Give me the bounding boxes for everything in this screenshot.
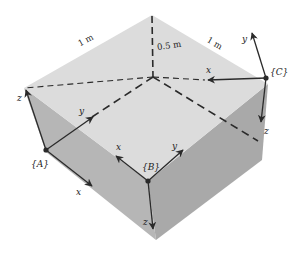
frame-b-y-label: y <box>171 141 178 151</box>
frame-a-x-label: x <box>76 187 81 197</box>
frame-c-z-label: z <box>263 126 269 136</box>
frame-c-label: {C} <box>270 67 288 77</box>
box <box>24 15 268 240</box>
frame-c-y-label: y <box>241 34 248 44</box>
frame-b-x-label: x <box>116 142 121 152</box>
frame-a-z-label: z <box>16 93 22 103</box>
frame-a-origin <box>43 147 48 152</box>
frame-b-z-label: z <box>142 217 148 227</box>
dimension-left-edge: 1 m <box>76 32 95 48</box>
frame-a-y-label: y <box>78 106 85 116</box>
frame-c-origin <box>263 75 268 80</box>
box-frames-diagram: 1 m 0.5 m 1 m {A} z y x {B} x y z <box>0 0 298 254</box>
frame-b-origin <box>145 178 150 183</box>
frame-c-x-label: x <box>206 65 211 75</box>
frame-a-label: {A} <box>31 159 49 169</box>
frame-b-label: {B} <box>142 162 160 172</box>
frame-c-y-axis <box>252 33 266 78</box>
